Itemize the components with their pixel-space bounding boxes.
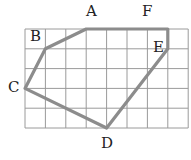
label-C: C bbox=[8, 80, 19, 95]
label-A: A bbox=[86, 4, 97, 19]
label-F: F bbox=[142, 4, 152, 19]
grid-polygon-diagram bbox=[0, 0, 191, 160]
label-B: B bbox=[30, 29, 41, 44]
hexagon-ABCDEF bbox=[25, 29, 168, 128]
label-D: D bbox=[101, 136, 113, 151]
label-E: E bbox=[153, 40, 164, 55]
